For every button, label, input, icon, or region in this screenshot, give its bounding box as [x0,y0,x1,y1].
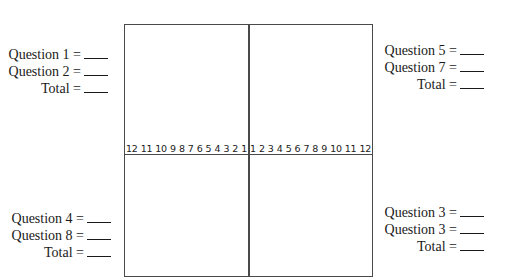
total-label: Total = [417,239,457,254]
score-blank[interactable] [87,227,111,240]
score-blank[interactable] [460,42,484,55]
total-label: Total = [44,245,84,260]
tick-label: 12 [359,143,371,154]
quadrant-grid: 12 11 10 9 8 7 6 5 4 3 2 1 1 2 3 4 5 6 7… [124,24,373,277]
score-row: Question 3 = [385,204,484,221]
tick-label: 11 [345,143,357,154]
tick-label: 3 [268,143,274,154]
total-label: Total = [41,81,81,96]
tick-label: 10 [330,143,342,154]
score-row: Total = [12,244,111,261]
score-group-top-right: Question 5 = Question 7 = Total = [385,42,484,93]
tick-label: 4 [277,143,283,154]
score-row: Question 5 = [385,42,484,59]
score-group-bottom-left: Question 4 = Question 8 = Total = [12,210,111,261]
tick-label: 6 [295,143,301,154]
score-blank[interactable] [460,59,484,72]
tick-label: 3 [223,143,229,154]
tick-label: 5 [206,143,212,154]
score-group-bottom-right: Question 3 = Question 3 = Total = [385,204,484,255]
axis-ticks-left: 12 11 10 9 8 7 6 5 4 3 2 1 [126,140,247,154]
score-label: Question 3 = [385,205,457,220]
tick-label: 1 [250,143,256,154]
tick-label: 11 [141,143,153,154]
tick-label: 7 [188,143,194,154]
total-blank[interactable] [84,80,108,93]
horizontal-axis [125,154,372,155]
tick-label: 10 [155,143,167,154]
total-blank[interactable] [460,76,484,89]
tick-label: 6 [197,143,203,154]
score-blank[interactable] [460,204,484,217]
score-label: Question 5 = [385,43,457,58]
score-blank[interactable] [84,63,108,76]
score-row: Total = [385,76,484,93]
score-row: Question 2 = [9,63,108,80]
total-label: Total = [417,77,457,92]
score-blank[interactable] [87,210,111,223]
score-row: Total = [9,80,108,97]
tick-label: 12 [126,143,138,154]
tick-label: 7 [303,143,309,154]
score-blank[interactable] [84,46,108,59]
tick-label: 2 [259,143,265,154]
score-group-top-left: Question 1 = Question 2 = Total = [9,46,108,97]
axis-ticks-right: 1 2 3 4 5 6 7 8 9 10 11 12 [250,140,371,154]
score-label: Question 3 = [385,222,457,237]
tick-label: 4 [215,143,221,154]
score-label: Question 2 = [9,64,81,79]
score-row: Question 4 = [12,210,111,227]
score-row: Question 3 = [385,221,484,238]
score-blank[interactable] [460,221,484,234]
score-label: Question 7 = [385,60,457,75]
total-blank[interactable] [87,244,111,257]
tick-label: 9 [170,143,176,154]
tick-label: 2 [232,143,238,154]
score-row: Question 1 = [9,46,108,63]
score-row: Question 8 = [12,227,111,244]
tick-label: 9 [321,143,327,154]
tick-label: 5 [286,143,292,154]
tick-label: 8 [179,143,185,154]
score-label: Question 1 = [9,47,81,62]
score-label: Question 4 = [12,211,84,226]
score-row: Question 7 = [385,59,484,76]
score-label: Question 8 = [12,228,84,243]
tick-label: 8 [312,143,318,154]
score-row: Total = [385,238,484,255]
tick-label: 1 [241,143,247,154]
total-blank[interactable] [460,238,484,251]
